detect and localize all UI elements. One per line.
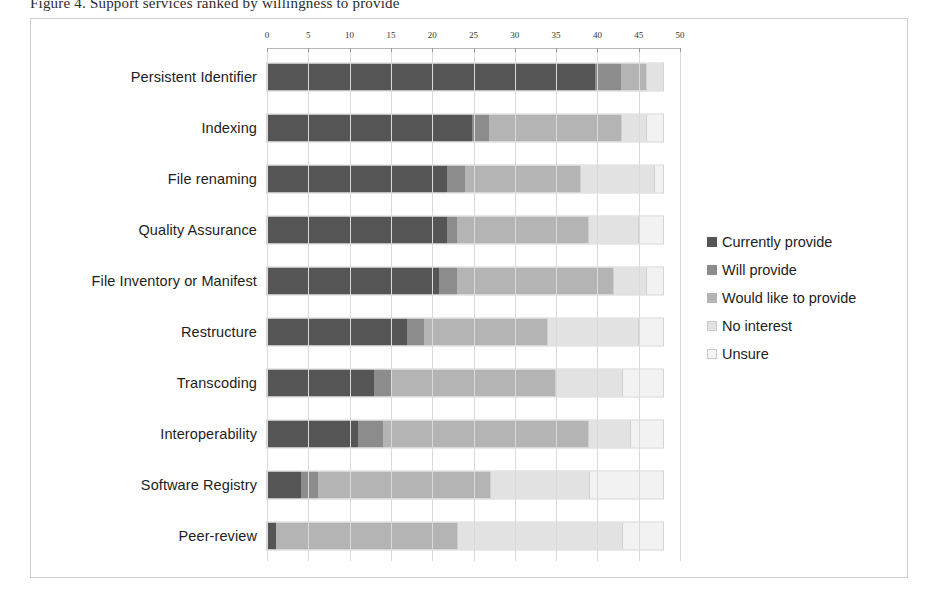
x-axis-tick-label: 50 [676, 30, 685, 40]
category-label: Quality Assurance [138, 222, 267, 238]
bar-segment[interactable] [267, 420, 358, 447]
bar-segment[interactable] [646, 268, 663, 295]
legend-label: Unsure [722, 346, 769, 362]
bar-row: File renaming [31, 154, 909, 205]
category-label: Interoperability [160, 426, 267, 442]
bar-segment[interactable] [638, 318, 663, 345]
bar-segment[interactable] [646, 115, 663, 142]
legend-swatch-icon [707, 321, 717, 331]
x-axis-tick-labels: 05101520253035404550 [267, 30, 680, 46]
bar-segment[interactable] [447, 166, 464, 193]
bar-segment[interactable] [638, 217, 663, 244]
stacked-bar[interactable] [267, 166, 663, 193]
category-label: File Inventory or Manifest [92, 273, 267, 289]
bar-segment[interactable] [267, 522, 276, 549]
figure-caption-remnant: Figure 4. Support services ranked by wil… [0, 0, 941, 14]
stacked-bar[interactable] [267, 471, 663, 498]
bar-segment[interactable] [465, 166, 580, 193]
bar-segment[interactable] [276, 522, 457, 549]
bar-segment[interactable] [267, 217, 447, 244]
bar-segment[interactable] [383, 420, 588, 447]
bar-segment[interactable] [358, 420, 383, 447]
stacked-bar[interactable] [267, 522, 663, 549]
bar-row: Indexing [31, 103, 909, 154]
x-axis-tick-label: 35 [552, 30, 561, 40]
bar-segment[interactable] [407, 318, 424, 345]
bar-segment[interactable] [622, 369, 664, 396]
bar-segment[interactable] [588, 420, 630, 447]
x-axis-tick-label: 0 [265, 30, 270, 40]
legend-item[interactable]: Will provide [707, 260, 897, 279]
legend-item[interactable]: Unsure [707, 344, 897, 363]
bar-segment[interactable] [267, 471, 301, 498]
category-label: Indexing [201, 120, 267, 136]
bar-segment[interactable] [424, 318, 547, 345]
bar-segment[interactable] [588, 217, 638, 244]
bar-row: Persistent Identifier [31, 52, 909, 103]
bar-segment[interactable] [580, 166, 654, 193]
legend-swatch-icon [707, 237, 717, 247]
legend-swatch-icon [707, 265, 717, 275]
bar-segment[interactable] [439, 268, 456, 295]
category-label: File renaming [168, 171, 267, 187]
bar-segment[interactable] [613, 268, 647, 295]
category-label: Software Registry [141, 477, 267, 493]
gridline [267, 52, 268, 561]
stacked-bar[interactable] [267, 369, 663, 396]
stacked-bar[interactable] [267, 420, 663, 447]
legend-swatch-icon [707, 293, 717, 303]
gridline [680, 52, 681, 561]
legend-label: No interest [722, 318, 792, 334]
legend-item[interactable]: No interest [707, 316, 897, 335]
bar-segment[interactable] [589, 471, 663, 498]
bar-segment[interactable] [267, 369, 374, 396]
bar-segment[interactable] [489, 115, 621, 142]
bar-segment[interactable] [267, 64, 595, 91]
bar-segment[interactable] [547, 318, 638, 345]
figure-frame: 05101520253035404550 Persistent Identifi… [30, 18, 908, 578]
stacked-bar[interactable] [267, 268, 663, 295]
bar-segment[interactable] [654, 166, 663, 193]
stacked-bar[interactable] [267, 318, 663, 345]
bar-segment[interactable] [630, 420, 664, 447]
bar-segment[interactable] [457, 268, 613, 295]
x-axis-tick-label: 25 [469, 30, 478, 40]
gridline [391, 52, 392, 561]
bar-segment[interactable] [457, 217, 589, 244]
legend-item[interactable]: Would like to provide [707, 288, 897, 307]
legend-swatch-icon [707, 349, 717, 359]
bar-segment[interactable] [622, 522, 664, 549]
bar-segment[interactable] [595, 64, 621, 91]
bar-segment[interactable] [447, 217, 456, 244]
stacked-bar[interactable] [267, 115, 663, 142]
category-label: Restructure [181, 324, 267, 340]
bar-segment[interactable] [621, 64, 647, 91]
bar-segment[interactable] [267, 268, 439, 295]
bar-segment[interactable] [490, 471, 589, 498]
bar-segment[interactable] [646, 64, 663, 91]
bar-segment[interactable] [267, 318, 407, 345]
x-axis-tick-label: 45 [634, 30, 643, 40]
bar-row: Peer-review [31, 510, 909, 561]
bar-segment[interactable] [267, 166, 447, 193]
bar-segment[interactable] [472, 115, 489, 142]
gridline [432, 52, 433, 561]
bar-row: Interoperability [31, 408, 909, 459]
bar-segment[interactable] [267, 115, 472, 142]
bar-segment[interactable] [555, 369, 621, 396]
legend-label: Will provide [722, 262, 797, 278]
x-axis-tick-label: 5 [306, 30, 311, 40]
gridline [308, 52, 309, 561]
bar-segment[interactable] [318, 471, 490, 498]
stacked-bar[interactable] [267, 217, 663, 244]
legend-label: Currently provide [722, 234, 832, 250]
stacked-bar[interactable] [267, 64, 663, 91]
x-axis-tick-label: 20 [428, 30, 437, 40]
category-label: Peer-review [179, 528, 267, 544]
bar-segment[interactable] [374, 369, 391, 396]
legend-item[interactable]: Currently provide [707, 232, 897, 251]
x-axis-tick-label: 30 [510, 30, 519, 40]
bar-segment[interactable] [621, 115, 646, 142]
gridline [474, 52, 475, 561]
category-label: Persistent Identifier [131, 69, 267, 85]
